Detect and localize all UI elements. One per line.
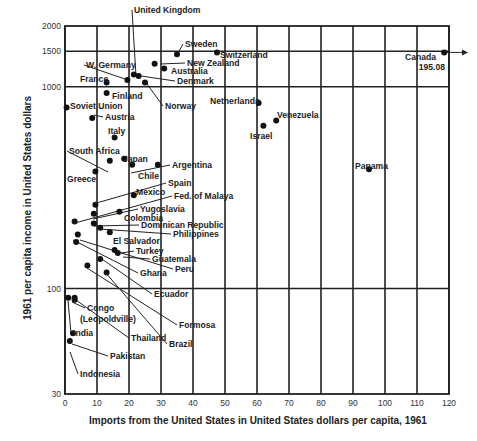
data-point (136, 73, 142, 79)
point-label: Panama (355, 161, 388, 171)
point-label: Venezuela (277, 110, 319, 120)
data-point (104, 270, 110, 276)
point-label: Finland (112, 91, 143, 101)
leader-line (68, 301, 71, 333)
point-label: Brazil (169, 339, 192, 349)
point-label: Greece (67, 174, 96, 184)
x-axis-title: Imports from the United States in United… (89, 415, 427, 426)
point-label: Fed. of Malaya (174, 191, 233, 201)
leader-line (72, 344, 108, 356)
leader-line (70, 352, 78, 374)
point-label: Mexico (136, 187, 165, 197)
point-label: Spain (168, 178, 191, 188)
data-point (67, 338, 73, 344)
x-tick-label: 110 (410, 398, 424, 408)
y-tick-label: 30 (52, 389, 62, 399)
point-label: Austria (105, 112, 135, 122)
data-point (73, 239, 79, 245)
data-point (91, 211, 97, 217)
point-label: El Salvador (113, 236, 160, 246)
data-point (64, 104, 70, 110)
x-tick-label: 70 (284, 398, 294, 408)
data-point (152, 61, 158, 67)
data-point (72, 297, 78, 303)
y-axis-title: 1961 per capita income in United States … (22, 96, 33, 320)
point-label: Chile (138, 171, 159, 181)
y-tick-label: 2000 (42, 21, 61, 31)
point-label: Congo(Leopoldville) (80, 303, 136, 324)
point-label: Indonesia (80, 369, 120, 379)
point-label: Peru (175, 264, 194, 274)
x-tick-label: 50 (220, 398, 230, 408)
x-tick-label: 60 (252, 398, 262, 408)
point-label: Japan (123, 154, 148, 164)
point-label: India (73, 328, 93, 338)
data-point (155, 162, 161, 168)
point-label: Australia (171, 66, 208, 76)
leader-line (94, 115, 103, 117)
data-point (161, 66, 167, 72)
leader-line (160, 63, 185, 64)
x-tick-label: 40 (188, 398, 198, 408)
data-point (174, 51, 180, 57)
data-point (260, 123, 266, 129)
point-label: Norway (165, 101, 196, 111)
data-point (84, 263, 90, 269)
point-label: Italy (108, 126, 125, 136)
data-point (97, 256, 103, 262)
point-label: Formosa (179, 320, 216, 330)
y-tick-label: 1500 (42, 46, 61, 56)
x-tick-label: 120 (442, 398, 456, 408)
point-label: Israel (250, 131, 272, 141)
point-label: South Africa (69, 146, 120, 156)
point-label: Ghana (140, 268, 167, 278)
x-tick-label: 90 (348, 398, 358, 408)
data-point (92, 202, 98, 208)
data-point (89, 115, 95, 121)
leader-line (121, 251, 134, 253)
data-point (107, 229, 113, 235)
point-label: Sweden (185, 39, 217, 49)
point-labels: United KingdomSwedenSwitzerlandNew Zeala… (67, 5, 445, 379)
arrow-head-icon (462, 49, 468, 55)
data-point (115, 250, 121, 256)
point-label: Denmark (177, 76, 214, 86)
x-tick-label: 20 (124, 398, 134, 408)
data-point (142, 79, 148, 85)
x-tick-label: 100 (378, 398, 392, 408)
data-point (124, 77, 130, 83)
point-label: Soviet Union (70, 101, 123, 111)
y-tick-label: 1000 (42, 82, 61, 92)
data-point (72, 218, 78, 224)
point-label: Pakistan (110, 351, 145, 361)
canada-value: 195.08 (419, 62, 446, 72)
point-label: Guatemala (152, 254, 196, 264)
point-label: Thailand (131, 333, 166, 343)
y-tick-label: 100 (47, 284, 61, 294)
data-point (116, 209, 122, 215)
point-label: Netherlands (210, 96, 260, 106)
point-label: Philippines (173, 229, 219, 239)
data-point (75, 232, 81, 238)
point-label: Argentina (172, 160, 212, 170)
data-point (91, 220, 97, 226)
x-tick-label: 10 (92, 398, 102, 408)
point-label: Canada (405, 52, 436, 62)
data-point (107, 158, 113, 164)
data-point (65, 295, 71, 301)
point-label: W. Germany (86, 60, 136, 70)
data-point (97, 225, 103, 231)
point-label: France (80, 74, 108, 84)
data-point (104, 90, 110, 96)
x-tick-label: 30 (156, 398, 166, 408)
scatter-chart: 0102030405060708090100110120301001000150… (0, 0, 477, 441)
data-point (441, 49, 447, 55)
point-label: United Kingdom (134, 5, 201, 15)
x-tick-label: 0 (63, 398, 68, 408)
point-label: Ecuador (154, 289, 189, 299)
x-tick-label: 80 (316, 398, 326, 408)
